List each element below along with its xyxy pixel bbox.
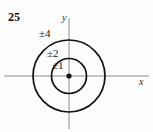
figure-container: 25 ±4 ±2 ±1 y x <box>0 0 153 132</box>
y-axis-label: y <box>62 13 66 23</box>
x-axis-label: x <box>139 77 143 87</box>
complex-plane-plot <box>0 0 153 132</box>
origin-dot <box>66 73 71 78</box>
radius-label-pm1: ±1 <box>52 60 64 71</box>
radius-label-pm4: ±4 <box>39 28 51 39</box>
radius-label-pm2: ±2 <box>47 48 59 59</box>
